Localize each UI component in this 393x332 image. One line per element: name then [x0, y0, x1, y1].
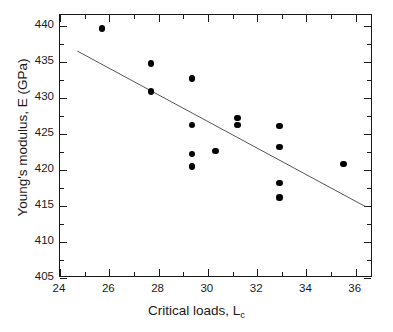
regression-line	[60, 15, 373, 278]
y-tick-label: 430	[10, 91, 54, 103]
x-tick-label: 24	[39, 283, 79, 295]
data-point	[234, 115, 241, 122]
x-axis-title-main: Critical loads, L	[148, 303, 240, 318]
x-axis-title-subscript: c	[240, 309, 245, 320]
data-point	[340, 161, 347, 168]
y-major-tick	[60, 278, 67, 279]
y-tick-label: 435	[10, 55, 54, 67]
x-tick-label: 28	[138, 283, 178, 295]
plot-area	[59, 14, 372, 277]
y-tick-label: 405	[10, 271, 54, 283]
scatter-plot-figure: Young's modulus, E (GPa) Critical loads,…	[0, 0, 393, 332]
data-point	[276, 123, 283, 130]
y-tick-label: 440	[10, 19, 54, 31]
data-point	[212, 148, 219, 155]
data-point	[148, 60, 155, 67]
x-tick-label: 36	[335, 283, 375, 295]
y-tick-label: 420	[10, 163, 54, 175]
data-point	[189, 75, 196, 82]
y-tick-label: 415	[10, 199, 54, 211]
data-point	[99, 25, 106, 32]
x-tick-label: 32	[236, 283, 276, 295]
x-tick-label: 34	[285, 283, 325, 295]
data-point	[189, 163, 196, 170]
x-tick-label: 26	[88, 283, 128, 295]
y-tick-label: 410	[10, 235, 54, 247]
x-tick-label: 30	[187, 283, 227, 295]
data-point	[276, 194, 283, 201]
x-axis-title: Critical loads, Lc	[0, 303, 393, 320]
y-tick-label: 425	[10, 127, 54, 139]
data-point	[276, 180, 283, 187]
data-point	[276, 144, 283, 151]
y-major-tick-right	[364, 278, 371, 279]
data-point	[148, 88, 155, 95]
